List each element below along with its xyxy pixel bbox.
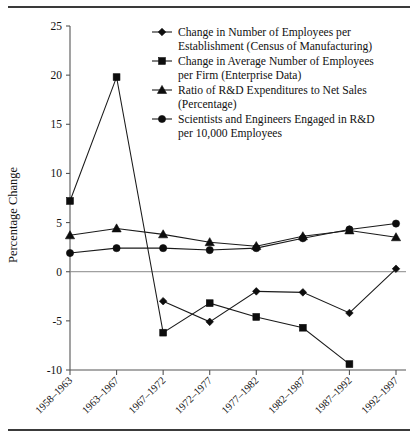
x-tick-label: 1992–1997 [359, 375, 400, 416]
y-tick-label: 15 [51, 118, 63, 130]
data-point [113, 74, 120, 81]
data-point [113, 245, 120, 252]
y-tick-label: 5 [56, 217, 62, 229]
data-point [206, 300, 213, 307]
x-tick-label: 1967–1972 [126, 375, 167, 416]
y-tick-label: 20 [51, 69, 63, 81]
x-axis: 1958–19631963–19671967–19721972–19771977… [33, 370, 406, 416]
y-tick-label: -5 [52, 315, 62, 327]
legend-item-3: Ratio of R&D Expenditures to Net Sales(P… [152, 84, 367, 111]
data-point [160, 329, 167, 336]
line-chart: -10-50510152025 1958–19631963–19671967–1… [0, 0, 418, 444]
legend-label-continued: Establishment (Census of Manufacturing) [178, 40, 372, 53]
legend-item-1: Change in Number of Employees perEstabli… [152, 26, 372, 53]
x-tick-label: 1972–1977 [173, 375, 214, 416]
data-point [159, 297, 167, 305]
y-axis-title: Percentage Change [6, 166, 20, 263]
x-tick-label: 1987–1992 [313, 375, 354, 416]
data-point [206, 246, 213, 253]
data-point [66, 249, 73, 256]
figure-container: -10-50510152025 1958–19631963–19671967–1… [0, 0, 418, 444]
y-tick-label: -10 [47, 364, 63, 376]
x-tick-label: 1963–1967 [80, 375, 121, 416]
data-point [206, 318, 214, 326]
data-point [299, 289, 307, 297]
y-tick-label: 25 [51, 20, 63, 32]
legend-marker-triangle [157, 85, 166, 93]
data-point [299, 235, 306, 242]
legend-label: Ratio of R&D Expenditures to Net Sales [178, 84, 367, 97]
data-point [112, 224, 121, 232]
x-tick-label: 1958–1963 [33, 375, 74, 416]
data-point [67, 198, 74, 205]
legend-label-continued: per 10,000 Employees [178, 127, 282, 140]
y-tick-label: 10 [51, 167, 63, 179]
data-point [346, 361, 353, 368]
x-tick-label: 1977–1982 [220, 375, 261, 416]
legend-label: Scientists and Engineers Engaged in R&D [178, 113, 375, 126]
legend-marker-square [159, 58, 166, 65]
data-point [253, 314, 260, 321]
legend-item-2: Change in Average Number of Employeesper… [152, 55, 374, 82]
data-point [253, 245, 260, 252]
data-point [160, 245, 167, 252]
chart-legend: Change in Number of Employees perEstabli… [152, 26, 375, 140]
legend-marker-circle [158, 115, 165, 122]
data-point [346, 226, 353, 233]
y-tick-label: 0 [56, 266, 62, 278]
data-point [392, 220, 399, 227]
legend-marker-diamond [158, 28, 166, 36]
legend-item-4: Scientists and Engineers Engaged in R&Dp… [152, 113, 375, 140]
legend-label: Change in Average Number of Employees [178, 55, 374, 68]
x-tick-label: 1982–1987 [266, 375, 307, 416]
legend-label-continued: per Firm (Enterprise Data) [178, 69, 301, 82]
series-1 [159, 265, 399, 326]
legend-label: Change in Number of Employees per [178, 26, 351, 39]
data-point [299, 324, 306, 331]
legend-label-continued: (Percentage) [178, 98, 237, 111]
data-point [252, 288, 260, 296]
